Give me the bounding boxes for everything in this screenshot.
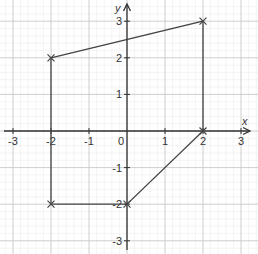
x-axis-label: x — [241, 115, 248, 127]
y-tick-label: 2 — [116, 52, 122, 64]
axes — [4, 4, 250, 250]
grid-minor — [0, 0, 258, 254]
y-tick-label: 3 — [116, 15, 122, 27]
y-axis-label: y — [114, 2, 122, 14]
grid-major — [0, 0, 258, 254]
coordinate-plane: -3-2-10123-3-2-1123 x y — [0, 0, 258, 254]
y-tick-label: -1 — [112, 162, 122, 174]
y-tick-label: -3 — [112, 235, 122, 247]
plot-svg: -3-2-10123-3-2-1123 x y — [0, 0, 258, 254]
x-tick-label: 3 — [238, 135, 244, 147]
x-tick-label: 2 — [200, 135, 206, 147]
x-tick-label: 0 — [118, 135, 124, 147]
x-tick-label: 1 — [162, 135, 168, 147]
y-tick-label: 1 — [116, 88, 122, 100]
x-tick-label: -1 — [84, 135, 94, 147]
x-tick-label: -3 — [8, 135, 18, 147]
